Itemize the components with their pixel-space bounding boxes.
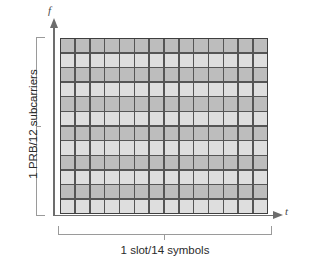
resource-element bbox=[135, 141, 148, 154]
resource-element bbox=[76, 54, 89, 67]
resource-element bbox=[120, 54, 133, 67]
resource-element bbox=[254, 200, 267, 213]
resource-element bbox=[61, 200, 74, 213]
resource-element bbox=[76, 127, 89, 140]
resource-element bbox=[224, 185, 237, 198]
resource-element bbox=[180, 83, 193, 96]
resource-element bbox=[105, 83, 118, 96]
resource-element bbox=[61, 185, 74, 198]
resource-element bbox=[209, 39, 222, 52]
resource-element bbox=[239, 39, 252, 52]
resource-element bbox=[165, 83, 178, 96]
resource-element bbox=[194, 68, 207, 81]
resource-element bbox=[91, 171, 104, 184]
resource-element bbox=[180, 97, 193, 110]
resource-element bbox=[76, 68, 89, 81]
resource-element bbox=[254, 54, 267, 67]
resource-element bbox=[135, 39, 148, 52]
resource-element bbox=[194, 83, 207, 96]
resource-element bbox=[209, 68, 222, 81]
resource-element bbox=[120, 141, 133, 154]
resource-element bbox=[239, 141, 252, 154]
resource-element bbox=[76, 141, 89, 154]
resource-element bbox=[61, 97, 74, 110]
resource-element bbox=[194, 97, 207, 110]
resource-element bbox=[61, 171, 74, 184]
resource-element bbox=[180, 141, 193, 154]
resource-element bbox=[76, 39, 89, 52]
resource-element bbox=[105, 97, 118, 110]
resource-element bbox=[224, 54, 237, 67]
resource-element bbox=[254, 39, 267, 52]
resource-element bbox=[91, 112, 104, 125]
slot-bracket-label: 1 slot/14 symbols bbox=[58, 244, 272, 256]
resource-element bbox=[239, 112, 252, 125]
resource-element bbox=[61, 141, 74, 154]
time-axis-line bbox=[53, 215, 275, 217]
resource-element bbox=[165, 112, 178, 125]
resource-element-grid bbox=[60, 38, 268, 214]
resource-element bbox=[61, 83, 74, 96]
resource-element bbox=[91, 83, 104, 96]
resource-element bbox=[150, 39, 163, 52]
resource-element bbox=[194, 39, 207, 52]
resource-element bbox=[209, 83, 222, 96]
resource-element bbox=[224, 68, 237, 81]
resource-element bbox=[194, 54, 207, 67]
resource-element bbox=[224, 83, 237, 96]
resource-element bbox=[239, 171, 252, 184]
resource-element bbox=[254, 156, 267, 169]
resource-element bbox=[209, 112, 222, 125]
resource-element bbox=[224, 171, 237, 184]
resource-element bbox=[180, 171, 193, 184]
resource-element bbox=[254, 68, 267, 81]
resource-element bbox=[224, 200, 237, 213]
resource-element bbox=[135, 200, 148, 213]
resource-element bbox=[224, 156, 237, 169]
frequency-axis-label: f bbox=[48, 4, 51, 16]
resource-element bbox=[165, 141, 178, 154]
resource-element bbox=[254, 185, 267, 198]
resource-element bbox=[209, 185, 222, 198]
resource-element bbox=[209, 200, 222, 213]
resource-element bbox=[165, 39, 178, 52]
resource-element bbox=[194, 112, 207, 125]
resource-element bbox=[120, 200, 133, 213]
resource-element bbox=[91, 141, 104, 154]
resource-element bbox=[91, 156, 104, 169]
resource-element bbox=[150, 68, 163, 81]
resource-element bbox=[91, 39, 104, 52]
resource-element bbox=[224, 127, 237, 140]
resource-element bbox=[209, 54, 222, 67]
resource-element bbox=[180, 112, 193, 125]
resource-element bbox=[224, 97, 237, 110]
resource-element bbox=[105, 112, 118, 125]
resource-element bbox=[76, 97, 89, 110]
resource-element bbox=[120, 127, 133, 140]
resource-element bbox=[120, 171, 133, 184]
resource-element bbox=[180, 156, 193, 169]
time-axis-arrow-icon bbox=[273, 211, 283, 219]
resource-element bbox=[194, 127, 207, 140]
resource-element bbox=[61, 68, 74, 81]
resource-element bbox=[120, 68, 133, 81]
resource-element bbox=[91, 97, 104, 110]
resource-element bbox=[120, 112, 133, 125]
resource-element bbox=[150, 54, 163, 67]
resource-element bbox=[91, 54, 104, 67]
resource-element bbox=[239, 127, 252, 140]
resource-element bbox=[165, 171, 178, 184]
resource-element bbox=[105, 156, 118, 169]
resource-element bbox=[135, 171, 148, 184]
resource-element bbox=[165, 97, 178, 110]
resource-element bbox=[150, 97, 163, 110]
resource-element bbox=[180, 39, 193, 52]
resource-element bbox=[209, 97, 222, 110]
resource-element bbox=[150, 127, 163, 140]
frequency-axis-arrow-icon bbox=[50, 18, 58, 28]
resource-element bbox=[105, 39, 118, 52]
resource-element bbox=[105, 171, 118, 184]
resource-element bbox=[135, 83, 148, 96]
resource-element bbox=[254, 127, 267, 140]
resource-element bbox=[180, 68, 193, 81]
